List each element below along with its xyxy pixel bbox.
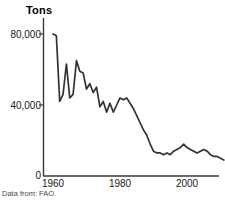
chart-figure: Tons 80,000 40,000 0 1960 1980 2000 Data…	[0, 0, 225, 201]
data-series-line	[53, 34, 224, 160]
plot-area	[0, 0, 225, 201]
source-caption: Data from: FAO.	[2, 189, 56, 198]
axis-lines	[39, 18, 219, 177]
